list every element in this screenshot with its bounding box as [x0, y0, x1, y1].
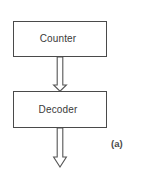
arrow-decoder-output	[54, 128, 67, 167]
connector-counter-to-decoder	[54, 57, 67, 91]
figure-caption: (a)	[111, 139, 123, 149]
arrow-counter-to-decoder	[54, 57, 67, 91]
block-counter-label: Counter	[40, 34, 77, 44]
block-counter: Counter	[13, 21, 107, 57]
block-decoder-label: Decoder	[39, 105, 78, 115]
block-diagram-figure: Counter Decoder (a)	[0, 0, 141, 175]
block-decoder: Decoder	[13, 91, 107, 128]
connector-decoder-output	[54, 128, 67, 167]
